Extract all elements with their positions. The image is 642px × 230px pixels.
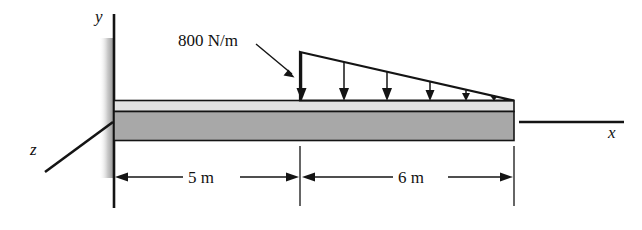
beam-diagram-figure: 800 N/m y z x 5 m 6 m bbox=[0, 0, 642, 230]
beam-top-flange bbox=[114, 101, 514, 112]
dimension-6m: 6 m bbox=[302, 168, 513, 187]
z-axis-label: z bbox=[29, 140, 37, 159]
dimension-5m: 5 m bbox=[115, 168, 299, 187]
dimension-6m-label: 6 m bbox=[398, 168, 424, 187]
dimension-5m-label: 5 m bbox=[188, 168, 214, 187]
beam-diagram-canvas: 800 N/m y z x 5 m 6 m bbox=[0, 0, 642, 230]
y-axis-label: y bbox=[93, 7, 103, 26]
wall-shadow bbox=[99, 38, 115, 178]
beam-body bbox=[114, 112, 514, 141]
load-magnitude-label: 800 N/m bbox=[178, 31, 238, 50]
distributed-load-triangle bbox=[300, 52, 514, 101]
load-label-leader bbox=[256, 44, 295, 78]
x-axis-label: x bbox=[607, 123, 616, 142]
